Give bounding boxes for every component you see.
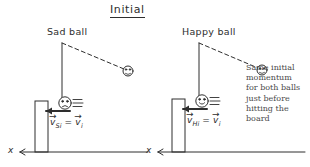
annotation-text: Same initial momentum for both balls jus… bbox=[246, 63, 300, 124]
happy-ball-label: Happy ball bbox=[182, 26, 236, 37]
sad-ball-label: Sad ball bbox=[47, 26, 87, 37]
annotation-line: momentum bbox=[246, 73, 300, 83]
left-swing-path bbox=[62, 43, 124, 69]
left-board bbox=[35, 101, 48, 152]
vector-arrow-icon: → bbox=[186, 110, 194, 119]
annotation-line: hitting the bbox=[246, 104, 300, 114]
annotation-line: for both balls bbox=[246, 83, 300, 93]
right-axis-label: x bbox=[146, 145, 151, 155]
right-subscript-1: Hi bbox=[193, 120, 200, 128]
left-v-symbol-1: →v bbox=[50, 117, 56, 127]
happy-ball-eye-right bbox=[204, 98, 206, 100]
right-board bbox=[172, 99, 185, 152]
happy-ball-eye-left bbox=[199, 98, 201, 100]
happy-ball bbox=[196, 95, 208, 107]
left-velocity-equation: →vSi = →vi bbox=[50, 117, 83, 130]
annotation-line: Same initial bbox=[246, 63, 300, 73]
sad-ball-eye-right bbox=[67, 100, 69, 102]
right-v-symbol-1: →v bbox=[187, 115, 193, 125]
annotation-line: board bbox=[246, 114, 300, 124]
right-equals: = bbox=[202, 115, 210, 125]
vector-arrow-icon: → bbox=[212, 110, 220, 119]
left-equals: = bbox=[65, 117, 73, 127]
left-axis-label: x bbox=[8, 145, 13, 155]
diagram-canvas: Initial Sad ball Happy ball →vSi = →vi →… bbox=[0, 0, 310, 167]
page-title: Initial bbox=[110, 3, 145, 18]
sad-ball-eye-left bbox=[62, 100, 64, 102]
right-v-symbol-2: →v bbox=[213, 115, 219, 125]
sad-ball bbox=[59, 97, 71, 109]
vector-arrow-icon: → bbox=[49, 112, 57, 121]
annotation-line: just before bbox=[246, 94, 300, 104]
left-subscript-2: i bbox=[81, 122, 83, 130]
left-subscript-1: Si bbox=[56, 122, 62, 130]
right-velocity-equation: →vHi = →vi bbox=[187, 115, 220, 128]
vector-arrow-icon: → bbox=[74, 112, 82, 121]
left-v-symbol-2: →v bbox=[75, 117, 81, 127]
